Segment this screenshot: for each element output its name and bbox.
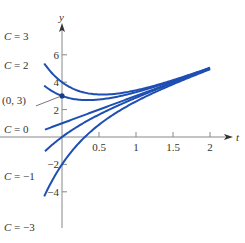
- x-tick-label: 0.5: [92, 141, 106, 153]
- solution-curve: [45, 69, 210, 152]
- direction-field-chart: ty0.511.52−4−2246 C = 3C = 2(0, 3)C = 0C…: [0, 0, 245, 243]
- curve-label: C = 0: [4, 123, 29, 135]
- x-tick-label: 1.5: [166, 141, 180, 153]
- curve-label: C = 2: [4, 59, 29, 71]
- curve-label: (0, 3): [2, 94, 26, 107]
- y-axis-label: y: [58, 11, 64, 23]
- curve-label: C = −1: [4, 170, 35, 182]
- curve-label: C = 3: [4, 30, 29, 42]
- initial-point: [59, 93, 64, 98]
- x-tick-label: 1: [133, 141, 139, 153]
- axes: ty0.511.52−4−2246: [0, 11, 240, 228]
- x-tick-label: 2: [207, 141, 213, 153]
- t-axis-arrow-icon: [224, 134, 233, 140]
- y-tick-label: −2: [47, 158, 59, 170]
- curve-labels: C = 3C = 2(0, 3)C = 0C = −1C = −3: [2, 30, 35, 233]
- y-tick-label: 6: [54, 49, 60, 61]
- curve-label: C = −3: [4, 221, 35, 233]
- y-tick-label: 2: [54, 104, 60, 116]
- t-axis-label: t: [236, 131, 240, 143]
- solution-curve: [44, 68, 210, 100]
